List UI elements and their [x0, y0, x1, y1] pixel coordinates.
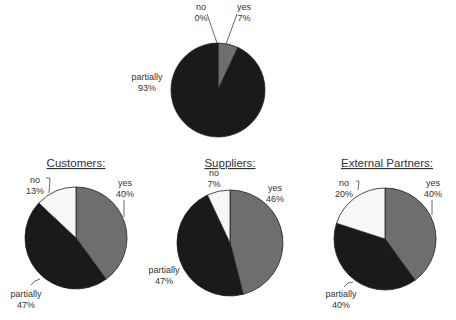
slice-value-partially: 47% — [17, 300, 35, 310]
pie-chart-1: Customers:yes40%partially47%no13% — [10, 157, 134, 310]
pie-chart-3: External Partners:yes40%partially40%no20… — [325, 157, 442, 310]
leader-line-yes — [226, 14, 237, 44]
slice-label-yes: yes — [118, 178, 133, 188]
slice-label-no: no — [339, 178, 349, 188]
slice-label-yes: yes — [426, 178, 441, 188]
slice-label-no: no — [196, 2, 206, 12]
pie-slice-partially — [171, 43, 265, 137]
slice-label-yes: yes — [268, 183, 283, 193]
slice-value-no: 13% — [26, 186, 44, 196]
slice-label-no: no — [209, 168, 219, 178]
pie-title: External Partners: — [341, 157, 433, 169]
slice-value-partially: 47% — [155, 276, 173, 286]
leader-line-partially — [344, 282, 353, 287]
pie-title: Customers: — [47, 157, 106, 169]
leader-line-no — [207, 14, 217, 43]
slice-label-partially: partially — [10, 289, 42, 299]
slice-value-no: 0% — [194, 13, 207, 23]
leader-line-partially — [31, 279, 40, 285]
slice-label-partially: partially — [148, 265, 180, 275]
slice-value-yes: 7% — [237, 13, 250, 23]
slice-label-no: no — [30, 175, 40, 185]
slice-value-yes: 40% — [424, 189, 442, 199]
leader-line-no — [46, 178, 50, 193]
slice-value-no: 7% — [207, 179, 220, 189]
leader-line-no — [356, 181, 359, 190]
slice-value-yes: 40% — [116, 189, 134, 199]
slice-label-partially: partially — [325, 289, 357, 299]
pie-charts: yes7%partially93%no0%Customers:yes40%par… — [0, 0, 456, 320]
slice-label-yes: yes — [237, 2, 252, 12]
slice-value-no: 20% — [335, 189, 353, 199]
slice-value-yes: 46% — [266, 194, 284, 204]
pie-chart-2: Suppliers:yes46%partially47%no7% — [148, 157, 284, 296]
pie-chart-0: yes7%partially93%no0% — [131, 2, 265, 137]
slice-value-partially: 93% — [138, 83, 156, 93]
slice-value-partially: 40% — [332, 300, 350, 310]
slice-label-partially: partially — [131, 72, 163, 82]
